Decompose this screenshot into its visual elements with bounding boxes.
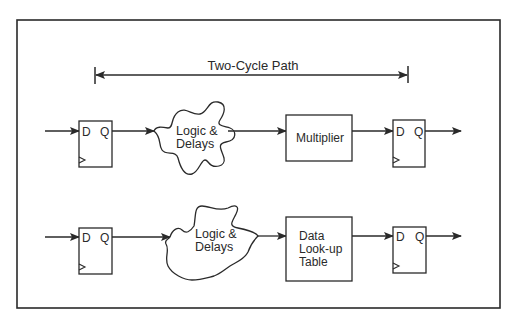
cloud-label-line1: Logic &	[176, 124, 218, 138]
output-flip-flop: D Q	[393, 227, 426, 273]
cloud-label-line2: Delays	[195, 240, 233, 254]
block-label-line1: Data	[299, 229, 325, 243]
multiplier-block: Multiplier	[286, 115, 352, 161]
output-flip-flop: D Q	[393, 120, 425, 167]
d-pin-label: D	[396, 230, 405, 244]
block-label-line3: Table	[299, 255, 328, 269]
q-pin-label: Q	[415, 230, 424, 244]
input-flip-flop: D Q	[79, 228, 112, 274]
d-pin-label: D	[82, 125, 91, 139]
row-lookup-path: D Q Logic & Delays Data Look-up Table D …	[45, 206, 461, 281]
path-title: Two-Cycle Path	[207, 58, 298, 73]
d-pin-label: D	[396, 125, 405, 139]
input-flip-flop: D Q	[79, 121, 112, 167]
d-pin-label: D	[82, 231, 91, 245]
block-label: Multiplier	[296, 131, 344, 145]
q-pin-label: Q	[100, 125, 109, 139]
two-cycle-path-bracket: Two-Cycle Path	[95, 58, 408, 84]
cloud-label-line2: Delays	[176, 137, 214, 151]
logic-delays-cloud: Logic & Delays	[154, 102, 235, 174]
logic-delays-cloud: Logic & Delays	[165, 206, 258, 280]
data-lookup-table-block: Data Look-up Table	[286, 217, 352, 281]
block-label-line2: Look-up	[299, 242, 343, 256]
row-multiplier-path: D Q Logic & Delays Multiplier D Q	[45, 102, 461, 174]
two-cycle-path-diagram: Two-Cycle Path D Q Logic & Delays Multip…	[0, 0, 517, 327]
cloud-label-line1: Logic &	[195, 227, 237, 241]
q-pin-label: Q	[100, 231, 109, 245]
q-pin-label: Q	[414, 125, 423, 139]
